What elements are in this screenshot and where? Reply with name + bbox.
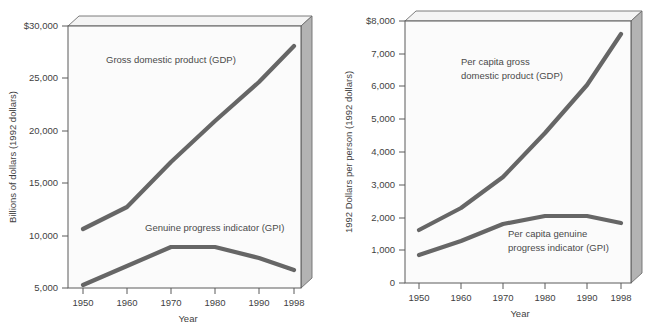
chart-left-x-axis-title: Year (178, 313, 197, 324)
chart-left-ytick-label-10000: 10,000 (29, 230, 58, 241)
chart-right-label-gdp-line2: domestic product (GDP) (461, 70, 563, 81)
chart-right-x-axis-title: Year (510, 308, 529, 319)
chart-left-xtick-label-1950: 1950 (72, 297, 93, 308)
chart-right-xtick-label-1990: 1990 (576, 292, 597, 303)
chart-right-x-ticks (419, 283, 621, 289)
chart-right-xtick-label-1960: 1960 (450, 292, 471, 303)
chart-right-xtick-label-1970: 1970 (492, 292, 513, 303)
chart-right-ytick-label-2000: 2,000 (371, 212, 395, 223)
chart-left-xtick-label-1970: 1970 (160, 297, 181, 308)
figure-root: $30,000 25,000 20,000 15,000 10,000 5,00… (0, 0, 660, 327)
chart-left: $30,000 25,000 20,000 15,000 10,000 5,00… (0, 0, 330, 327)
chart-right-label-gpi-line2: progress indicator (GPI) (508, 242, 609, 253)
chart-right-ytick-label-5000: 5,000 (371, 113, 395, 124)
chart-left-xtick-label-1990: 1990 (248, 297, 269, 308)
chart-left-label-gpi: Genuine progress indicator (GPI) (145, 222, 284, 233)
chart-left-ytick-label-15000: 15,000 (29, 177, 58, 188)
chart-right-xtick-label-1980: 1980 (534, 292, 555, 303)
chart-right-ytick-label-6000: 6,000 (371, 80, 395, 91)
chart-right-ytick-label-8000: $8,000 (366, 15, 395, 26)
chart-left-xtick-label-1980: 1980 (204, 297, 225, 308)
chart-right-ytick-label-0: 0 (390, 277, 395, 288)
chart-left-y-ticks (62, 26, 68, 288)
chart-left-ytick-label-30000: $30,000 (24, 20, 58, 31)
chart-left-x-ticks (83, 288, 294, 294)
chart-left-ytick-label-5000: 5,000 (34, 282, 58, 293)
chart-right-side-face (631, 11, 642, 283)
chart-left-y-axis-title: Billions of dollars (1992 dollars) (7, 91, 18, 223)
chart-right-y-ticks (399, 21, 405, 283)
chart-left-xtick-label-1998: 1998 (283, 297, 304, 308)
chart-right-label-gpi-line1: Per capita genuine (508, 228, 587, 239)
chart-right-y-axis-title: 1992 Dollars per person (1992 dollars) (343, 71, 354, 233)
chart-right-ytick-label-3000: 3,000 (371, 179, 395, 190)
chart-right-ytick-label-7000: 7,000 (371, 48, 395, 59)
chart-right-ytick-label-4000: 4,000 (371, 146, 395, 157)
chart-left-ytick-label-20000: 20,000 (29, 125, 58, 136)
chart-left-top-face (68, 16, 312, 26)
chart-right-ytick-label-1000: 1,000 (371, 244, 395, 255)
chart-left-ytick-label-25000: 25,000 (29, 72, 58, 83)
chart-right-xtick-label-1998: 1998 (610, 292, 631, 303)
chart-left-xtick-label-1960: 1960 (116, 297, 137, 308)
chart-left-label-gdp: Gross domestic product (GDP) (106, 54, 236, 65)
chart-right-top-face (405, 11, 642, 21)
chart-left-side-face (301, 16, 312, 288)
chart-right-xtick-label-1950: 1950 (408, 292, 429, 303)
chart-right: $8,000 7,000 6,000 5,000 4,000 3,000 2,0… (330, 0, 660, 327)
chart-right-label-gdp-line1: Per capita gross (461, 56, 530, 67)
